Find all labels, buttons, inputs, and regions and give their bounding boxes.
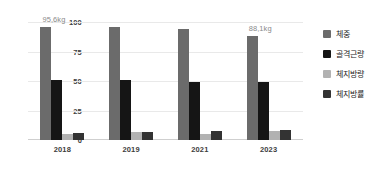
legend-swatch-icon (323, 90, 331, 98)
bar[interactable] (62, 134, 73, 140)
legend-swatch-icon (323, 70, 331, 78)
legend-item-label: 체지방량 (336, 68, 364, 79)
bar[interactable] (142, 132, 153, 140)
legend-item[interactable]: 체중 (323, 28, 364, 39)
x-axis: 2018 2019 2021 2023 (28, 145, 303, 154)
chart-legend: 체중골격근량체지방량체지방률 (323, 28, 364, 99)
legend-item-label: 체지방률 (336, 88, 364, 99)
legend-item-label: 체중 (336, 28, 350, 39)
bar-group: 95,6kg (40, 22, 84, 140)
bar-chart: 100 75 50 25 0 95,6kg88,1kg 2018 2019 20… (0, 0, 388, 174)
plot-area: 95,6kg88,1kg (28, 22, 303, 140)
x-axis-tick-label: 2019 (97, 145, 166, 154)
x-axis-tick-label: 2018 (28, 145, 97, 154)
legend-item[interactable]: 체지방률 (323, 88, 364, 99)
bar-group (178, 22, 222, 140)
bar[interactable] (280, 130, 291, 140)
legend-item-label: 골격근량 (336, 48, 364, 59)
bar[interactable] (247, 36, 258, 140)
bar[interactable] (73, 133, 84, 140)
bar[interactable] (189, 82, 200, 140)
bar[interactable] (40, 27, 51, 140)
bar-group (109, 22, 153, 140)
bar[interactable] (178, 29, 189, 141)
bar-value-annotation: 95,6kg (42, 15, 65, 24)
x-axis-tick-label: 2023 (234, 145, 303, 154)
bar[interactable] (258, 82, 269, 140)
bar-value-annotation: 88,1kg (249, 24, 272, 33)
bar[interactable] (131, 132, 142, 140)
bar-groups: 95,6kg88,1kg (28, 22, 303, 140)
x-axis-tick-label: 2021 (166, 145, 235, 154)
bar-group: 88,1kg (247, 22, 291, 140)
legend-swatch-icon (323, 30, 331, 38)
legend-item[interactable]: 골격근량 (323, 48, 364, 59)
bar[interactable] (109, 27, 120, 140)
legend-swatch-icon (323, 50, 331, 58)
bar[interactable] (269, 131, 280, 140)
bar[interactable] (120, 80, 131, 140)
bar[interactable] (211, 131, 222, 140)
bar[interactable] (51, 80, 62, 140)
legend-item[interactable]: 체지방량 (323, 68, 364, 79)
bar[interactable] (200, 134, 211, 140)
